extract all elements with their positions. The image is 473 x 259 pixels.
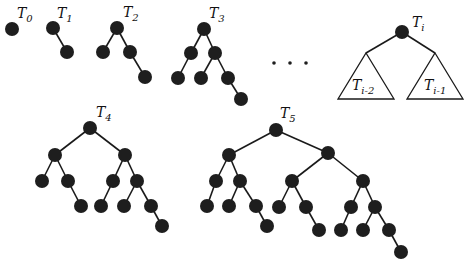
tree-t0: T0: [5, 5, 33, 36]
tree-node: [321, 146, 335, 160]
tree-node: [208, 46, 222, 60]
tree-node: [94, 199, 108, 213]
tree-node: [171, 71, 185, 85]
ellipsis: [272, 61, 308, 65]
tree-node: [118, 148, 132, 162]
tree-t4: T4: [35, 104, 169, 233]
tree-node: [209, 174, 223, 188]
tree-node-root: [395, 25, 409, 39]
tree-node: [260, 219, 274, 233]
tree-node: [285, 174, 299, 188]
tree-t1: T1: [46, 5, 74, 59]
fibonacci-trees-diagram: T0T1T2T3T4T5 Ti-2Ti-1Ti: [0, 0, 473, 259]
trees-layer: T0T1T2T3T4T5: [5, 4, 408, 259]
tree-node: [5, 22, 19, 36]
ellipsis-dot: [288, 61, 292, 65]
tree-node: [272, 200, 286, 214]
tree-label-t3: T3: [209, 5, 225, 24]
tree-label-t4: T4: [96, 104, 112, 123]
tree-node: [299, 200, 313, 214]
tree-node: [35, 174, 49, 188]
tree-node: [110, 21, 124, 35]
tree-node: [46, 21, 60, 35]
tree-node: [221, 71, 235, 85]
tree-node: [74, 199, 88, 213]
tree-node: [106, 174, 120, 188]
tree-label-t0: T0: [17, 5, 33, 24]
subtree-label-ti-1: Ti-1: [424, 77, 446, 96]
tree-edge: [276, 130, 328, 153]
tree-node: [222, 199, 236, 213]
tree-label-ti: Ti: [412, 14, 425, 33]
tree-node: [130, 174, 144, 188]
tree-node: [61, 174, 75, 188]
tree-node: [200, 199, 214, 213]
tree-node: [60, 45, 74, 59]
tree-node: [234, 92, 248, 106]
tree-node: [312, 223, 326, 237]
tree-node: [155, 219, 169, 233]
subtree-label-ti-2: Ti-2: [352, 77, 374, 96]
tree-node: [334, 223, 348, 237]
tree-node: [48, 148, 62, 162]
tree-node: [249, 199, 263, 213]
tree-node: [83, 121, 97, 135]
tree-node: [356, 223, 370, 237]
tree-label-t1: T1: [57, 5, 73, 24]
tree-node: [144, 199, 158, 213]
tree-node: [233, 174, 247, 188]
ellipsis-dot: [272, 61, 276, 65]
tree-node: [344, 200, 358, 214]
tree-node: [96, 45, 110, 59]
tree-label-t5: T5: [280, 105, 296, 124]
ellipsis-dot: [304, 61, 308, 65]
tree-t3: T3: [171, 5, 248, 106]
tree-node: [356, 174, 370, 188]
tree-node: [117, 199, 131, 213]
tree-node: [222, 148, 236, 162]
tree-t5: T5: [200, 105, 408, 259]
tree-node: [138, 70, 152, 84]
recursive-tree-ti: Ti-2Ti-1Ti: [338, 14, 463, 99]
tree-node: [123, 45, 137, 59]
tree-node: [269, 123, 283, 137]
tree-node: [194, 71, 208, 85]
tree-label-t2: T2: [123, 4, 139, 23]
tree-t2: T2: [96, 4, 152, 84]
tree-node: [394, 245, 408, 259]
tree-node: [184, 46, 198, 60]
tree-node: [197, 22, 211, 36]
tree-edge: [229, 130, 276, 155]
tree-node: [382, 223, 396, 237]
tree-node: [368, 200, 382, 214]
